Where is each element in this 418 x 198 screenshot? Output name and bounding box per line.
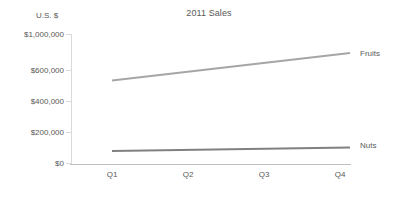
series-label-nuts: Nuts (360, 141, 376, 150)
series-line-nuts (112, 148, 350, 152)
series-lines (0, 0, 418, 198)
chart-screenshot: 2011 Sales U.S. $ $1,000,000$600,000$400… (0, 0, 418, 198)
series-label-fruits: Fruits (360, 49, 380, 58)
series-line-fruits (112, 53, 350, 81)
